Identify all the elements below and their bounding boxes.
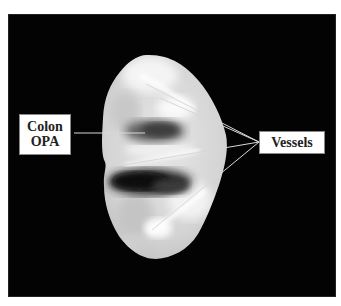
vessels-label: Vessels	[259, 131, 325, 154]
organ-map	[95, 45, 235, 265]
colon-label-line2: OPA	[20, 134, 70, 149]
colon-label-line1: Colon	[20, 119, 70, 134]
colon-opa-label: Colon OPA	[19, 114, 71, 155]
